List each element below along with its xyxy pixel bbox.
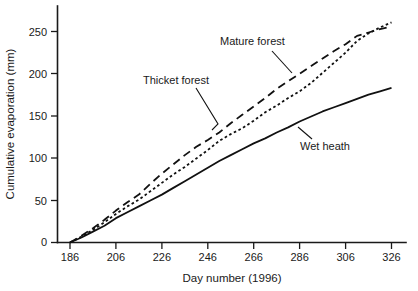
series-line-wet-heath [70, 88, 392, 243]
x-tick-label-306: 306 [336, 251, 354, 263]
y-tick-label-100: 100 [29, 152, 47, 164]
x-tick-label-286: 286 [290, 251, 308, 263]
y-axis-ticks [51, 32, 58, 243]
y-tick-label-250: 250 [29, 26, 47, 38]
x-tick-label-246: 246 [199, 251, 217, 263]
leader-line-mature-forest [272, 51, 292, 73]
x-tick-label-326: 326 [382, 251, 400, 263]
y-tick-label-200: 200 [29, 68, 47, 80]
annotation-label-wet-heath: Wet heath [300, 140, 350, 152]
x-tick-label-186: 186 [61, 251, 79, 263]
chart-canvas: 0 50 100 150 200 250 186 206 226 246 266… [0, 0, 418, 291]
leader-line-thicket-forest [196, 88, 218, 130]
x-tick-label-266: 266 [245, 251, 263, 263]
x-axis-title: Day number (1996) [182, 272, 281, 284]
evaporation-chart-figure: 0 50 100 150 200 250 186 206 226 246 266… [0, 0, 418, 291]
y-axis-title: Cumulative evaporation (mm) [4, 48, 16, 199]
y-tick-label-0: 0 [41, 236, 47, 248]
x-tick-label-226: 226 [153, 251, 171, 263]
leader-line-wet-heath [298, 127, 312, 139]
y-tick-label-50: 50 [35, 195, 47, 207]
x-axis-ticks [70, 243, 392, 250]
y-tick-label-150: 150 [29, 110, 47, 122]
annotation-label-thicket-forest: Thicket forest [143, 74, 209, 86]
x-tick-label-206: 206 [107, 251, 125, 263]
annotation-label-mature-forest: Mature forest [220, 35, 285, 47]
